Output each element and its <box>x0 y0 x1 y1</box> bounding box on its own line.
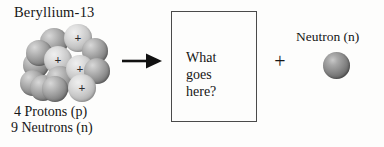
proton-count-label: 4 Protons (p) <box>14 104 87 120</box>
unknown-product-box[interactable]: What goes here? <box>171 11 257 122</box>
nuclide-label: Beryllium-13 <box>14 4 95 21</box>
product-box-question-text: What goes here? <box>186 49 216 100</box>
plus-operator: + <box>271 52 289 70</box>
neutron-label: Neutron (n) <box>296 29 359 45</box>
reaction-arrow-icon <box>122 53 162 69</box>
arrow-right-icon <box>122 53 162 69</box>
nuclear-reaction-diagram: Beryllium-13 ++++ 4 Protons (p) 9 Neutro… <box>0 0 384 147</box>
beryllium-13-nucleus-cluster: ++++ <box>18 22 118 104</box>
proton-sphere <box>68 74 96 102</box>
neutron-sphere-icon <box>323 52 350 79</box>
neutron-sphere <box>42 76 68 102</box>
neutron-count-label: 9 Neutrons (n) <box>11 120 93 136</box>
